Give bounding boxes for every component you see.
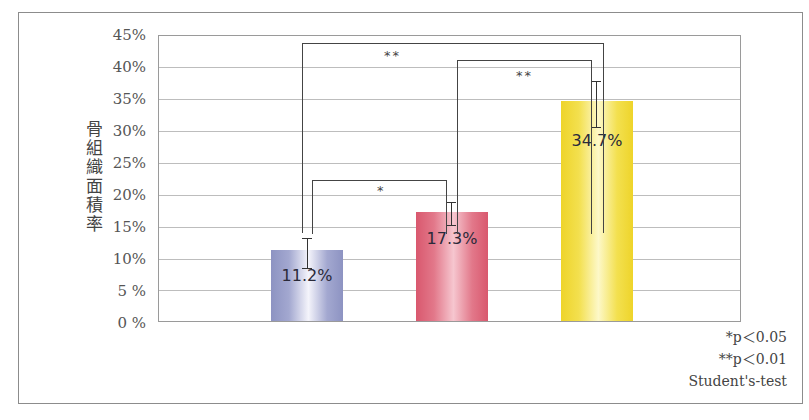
significance-marker: * — [377, 183, 386, 198]
significance-marker: ** — [516, 68, 533, 83]
y-tick-30: 30% — [86, 123, 146, 139]
significance-marker: ** — [384, 48, 401, 63]
y-tick-5: 5 % — [86, 283, 146, 299]
y-tick-20: 20% — [86, 187, 146, 203]
plot-area: 11.2% 17.3% 34.7% ** ** * — [158, 35, 741, 322]
y-tick-45: 45% — [86, 27, 146, 43]
error-bar — [307, 238, 308, 268]
y-tick-40: 40% — [86, 59, 146, 75]
note-p001: **p＜0.01 — [719, 349, 787, 369]
error-cap — [302, 238, 312, 239]
note-test: Student's-test — [688, 371, 787, 391]
y-tick-0: 0 % — [86, 315, 146, 331]
y-tick-25: 25% — [86, 155, 146, 171]
note-p005: *p＜0.05 — [726, 327, 787, 347]
y-tick-15: 15% — [86, 219, 146, 235]
y-tick-35: 35% — [86, 91, 146, 107]
y-tick-10: 10% — [86, 251, 146, 267]
error-cap — [302, 268, 312, 269]
significance-bracket-2-3 — [457, 60, 592, 234]
